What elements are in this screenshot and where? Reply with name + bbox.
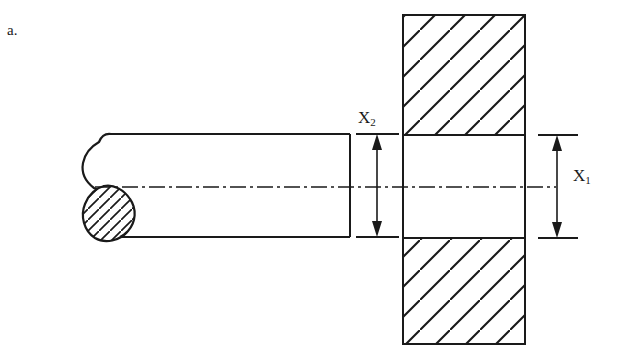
dimension-label-x2-base: X <box>358 108 370 127</box>
plate-part <box>403 15 525 344</box>
dimension-label-x2-subscript: 2 <box>370 116 376 128</box>
figure-canvas: a. X2 X1 <box>0 0 619 364</box>
dimension-x1 <box>538 135 578 238</box>
shaft-part <box>76 134 350 250</box>
x2-arrowhead-up <box>372 134 382 150</box>
plate-upper-hatch <box>403 15 525 135</box>
plate-lower-hatch <box>403 238 525 344</box>
dimension-label-x1-subscript: 1 <box>585 174 591 186</box>
technical-drawing <box>0 0 619 364</box>
shaft-end-bulb <box>76 180 140 250</box>
dimension-label-x1: X1 <box>573 166 591 186</box>
dimension-x2 <box>356 134 399 237</box>
dimension-label-x2: X2 <box>358 108 376 128</box>
x2-arrowhead-down <box>372 221 382 237</box>
x1-arrowhead-down <box>552 222 562 238</box>
shaft-end-hook-curve <box>83 134 111 190</box>
figure-label: a. <box>7 22 17 39</box>
x1-arrowhead-up <box>552 135 562 151</box>
dimension-label-x1-base: X <box>573 166 585 185</box>
